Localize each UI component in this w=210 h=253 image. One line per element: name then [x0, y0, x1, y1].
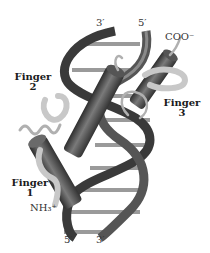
label-c-terminus: COO⁻	[165, 32, 194, 42]
label-bottom-5-prime: 5′	[64, 235, 73, 245]
label-finger2: Finger 2	[13, 72, 53, 92]
label-bottom-3-prime: 3′	[96, 235, 105, 245]
label-finger3: Finger 3	[162, 98, 202, 118]
label-top-3-prime: 3′	[96, 18, 105, 28]
label-n-terminus: NH₃⁺	[30, 203, 57, 213]
label-finger1: Finger 1	[10, 178, 50, 198]
zinc-finger-dna-diagram: 3′ 5′ COO⁻ Finger 2 Finger 3 Finger 1 NH…	[0, 0, 210, 253]
label-top-5-prime: 5′	[138, 18, 147, 28]
